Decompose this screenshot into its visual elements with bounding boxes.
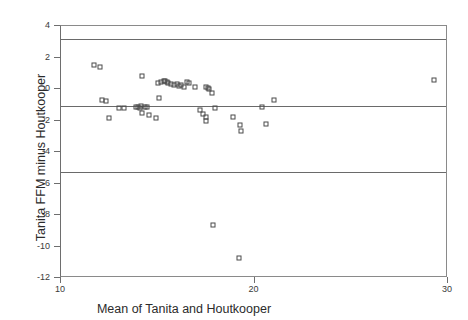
y-tick-label: -12 xyxy=(6,273,50,282)
data-point xyxy=(104,98,109,103)
data-point xyxy=(237,256,242,261)
data-point xyxy=(260,105,265,110)
data-point xyxy=(432,77,437,82)
y-tick-label: -4 xyxy=(6,147,50,156)
x-tick-label: 10 xyxy=(55,285,65,294)
y-tick-label: -2 xyxy=(6,115,50,124)
x-axis-title: Mean of Tanita and Houtkooper xyxy=(60,303,308,316)
data-point xyxy=(231,114,236,119)
data-point xyxy=(153,116,158,121)
y-tick-label: 0 xyxy=(6,84,50,93)
data-point xyxy=(140,74,145,79)
x-tick-mark xyxy=(447,277,448,283)
data-point xyxy=(237,123,242,128)
data-point xyxy=(186,80,191,85)
data-point xyxy=(107,116,112,121)
data-point xyxy=(212,105,217,110)
data-point xyxy=(210,223,215,228)
x-tick-mark xyxy=(254,277,255,283)
data-point xyxy=(264,122,269,127)
data-point xyxy=(271,98,276,103)
y-tick-label: -6 xyxy=(6,178,50,187)
lower-limit-of-agreement-line xyxy=(61,172,446,173)
data-point xyxy=(192,85,197,90)
plot-area xyxy=(60,25,447,277)
y-tick-label: 4 xyxy=(6,21,50,30)
upper-limit-of-agreement-line xyxy=(61,39,446,40)
x-tick-label: 20 xyxy=(248,285,258,294)
data-point xyxy=(97,64,102,69)
y-tick-label: -10 xyxy=(6,241,50,250)
data-point xyxy=(91,62,96,67)
x-tick-mark xyxy=(60,277,61,283)
data-point xyxy=(121,105,126,110)
data-point xyxy=(156,96,161,101)
scatter-chart: Tanita FFM minus Houtkooper 420-2-4-6-8-… xyxy=(0,0,468,320)
y-tick-label: -8 xyxy=(6,210,50,219)
x-tick-label: 30 xyxy=(442,285,452,294)
y-tick-label: 2 xyxy=(6,52,50,61)
data-point xyxy=(145,105,150,110)
data-point xyxy=(204,119,209,124)
data-point xyxy=(209,90,214,95)
data-point xyxy=(238,128,243,133)
data-point xyxy=(147,112,152,117)
data-point xyxy=(140,110,145,115)
